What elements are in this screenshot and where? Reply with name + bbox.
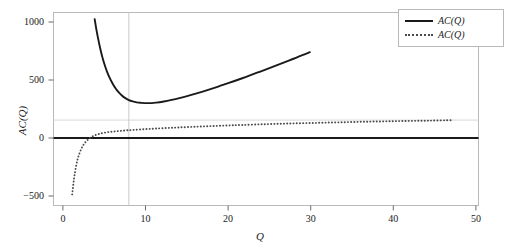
x-tick-label: 10: [141, 214, 151, 224]
legend-label: AC(Q): [434, 16, 465, 26]
chart-figure: 1000 500 0 −500 0 10 20 30 40 50 AC(Q) Q…: [0, 0, 528, 249]
legend: AC(Q) AC(Q): [398, 9, 504, 47]
legend-entry-dotted: AC(Q): [404, 28, 498, 42]
legend-swatch-solid-icon: [404, 16, 434, 26]
x-tick-label: 0: [60, 214, 65, 224]
x-tick-marks: [63, 206, 476, 211]
y-tick-label: −500: [8, 191, 44, 201]
x-tick-label: 50: [471, 214, 481, 224]
x-tick-label: 20: [223, 214, 233, 224]
x-axis-title: Q: [256, 231, 264, 242]
y-tick-label: 500: [8, 75, 44, 85]
y-tick-label: 1000: [8, 17, 44, 27]
y-tick-marks: [49, 22, 54, 196]
legend-entry-solid: AC(Q): [404, 14, 498, 28]
x-tick-label: 40: [388, 214, 398, 224]
y-axis-title: AC(Q): [17, 98, 28, 144]
legend-label: AC(Q): [434, 30, 465, 40]
x-tick-label: 30: [306, 214, 316, 224]
legend-swatch-dotted-icon: [404, 30, 434, 40]
